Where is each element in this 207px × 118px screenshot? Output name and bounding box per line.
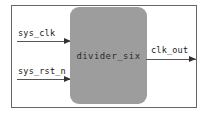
signal-label-sys-clk: sys_clk — [18, 28, 55, 38]
signal-label-sys-rst-n: sys_rst_n — [18, 66, 66, 76]
block-diagram-canvas: sys_clk sys_rst_n divider_six clk_out — [0, 0, 207, 118]
arrow-right-icon-clk-out — [189, 56, 196, 62]
signal-wire-sys-clk — [17, 41, 71, 42]
module-block-label: divider_six — [70, 7, 147, 104]
module-block-divider-six: divider_six — [70, 7, 147, 104]
signal-wire-sys-rst-n — [17, 79, 71, 80]
signal-label-clk-out: clk_out — [151, 45, 188, 55]
